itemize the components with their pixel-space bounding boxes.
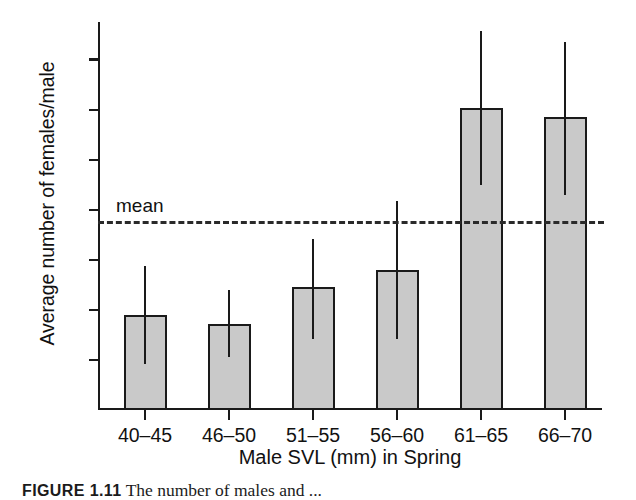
x-tick-label-2: 51–55 (265, 424, 361, 447)
x-tick-3 (396, 409, 398, 420)
y-tick-14 (89, 58, 100, 60)
y-tick-12 (89, 109, 100, 111)
error-bar-0 (144, 266, 146, 364)
x-tick-5 (564, 409, 566, 420)
x-tick-label-3: 56–60 (349, 424, 445, 447)
x-tick-label-5: 66–70 (517, 424, 613, 447)
y-tick-6 (89, 259, 100, 261)
x-axis-line (98, 408, 602, 410)
x-tick-2 (312, 409, 314, 420)
x-tick-label-4: 61–65 (433, 424, 529, 447)
y-tick-2 (89, 359, 100, 361)
y-tick-8 (89, 209, 100, 211)
y-axis-title: Average number of females/male (36, 9, 59, 399)
figure-number: FIGURE 1.11 (22, 482, 122, 499)
mean-line (98, 221, 604, 224)
error-bar-4 (480, 31, 482, 185)
y-tick-4 (89, 309, 100, 311)
x-tick-4 (480, 409, 482, 420)
y-axis-line (98, 22, 100, 410)
x-tick-0 (144, 409, 146, 420)
error-bar-2 (312, 239, 314, 339)
mean-label: mean (116, 195, 164, 217)
x-axis-title: Male SVL (mm) in Spring (98, 446, 602, 469)
error-bar-5 (564, 42, 566, 195)
x-tick-1 (228, 409, 230, 420)
x-tick-label-0: 40–45 (97, 424, 193, 447)
plot-area: 2468101214 40–4546–5051–5556–6061–6566–7… (98, 22, 602, 410)
error-bar-1 (228, 290, 230, 358)
figure-caption: FIGURE 1.11 The number of males and ... (22, 480, 622, 500)
y-tick-10 (89, 159, 100, 161)
figure-caption-text: The number of males and ... (126, 480, 322, 500)
x-tick-label-1: 46–50 (181, 424, 277, 447)
